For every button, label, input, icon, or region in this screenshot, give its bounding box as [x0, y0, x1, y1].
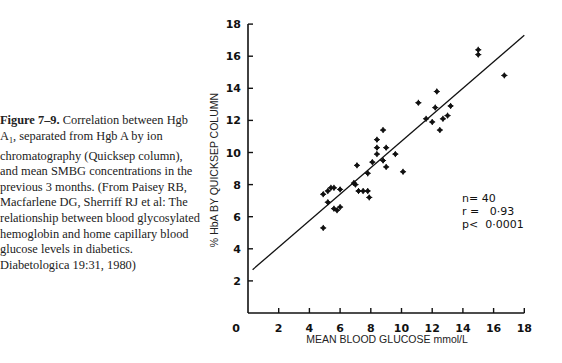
data-point	[434, 89, 440, 95]
data-point	[374, 137, 380, 143]
y-tick-label: 14	[226, 82, 242, 95]
tick-labels: 24681012141618024681012141618	[226, 18, 532, 335]
data-point	[400, 169, 406, 175]
y-tick-label: 4	[233, 243, 241, 256]
y-tick-label: 8	[233, 179, 241, 192]
stat-line: r = 0·93	[462, 205, 514, 218]
data-point	[501, 72, 507, 78]
stat-line: n= 40	[462, 192, 496, 205]
y-tick-label: 2	[233, 275, 241, 288]
data-point	[337, 186, 343, 192]
data-point	[325, 199, 331, 205]
statistics-annotation: n= 40r = 0·93p< 0·0001	[462, 192, 524, 231]
data-point	[475, 52, 481, 58]
data-point	[440, 116, 446, 122]
data-point	[383, 164, 389, 170]
data-point	[383, 145, 389, 151]
data-point	[374, 151, 380, 157]
y-axis-label: % HbA BY QUICKSEP COLUMN	[208, 93, 220, 247]
y-tick-label: 16	[226, 50, 242, 63]
scatter-chart: 24681012141618024681012141618 % HbA BY Q…	[0, 0, 562, 363]
x-tick-label: 16	[486, 322, 502, 335]
y-tick-label: 18	[226, 18, 241, 31]
data-point	[365, 188, 371, 194]
stat-line: p< 0·0001	[462, 218, 524, 231]
data-point	[448, 103, 454, 109]
data-point	[366, 194, 372, 200]
data-point	[320, 191, 326, 197]
data-point	[445, 113, 451, 119]
data-point	[392, 151, 398, 157]
data-point	[437, 127, 443, 133]
data-point	[380, 127, 386, 133]
data-point	[331, 185, 337, 191]
y-tick-label: 12	[226, 114, 241, 127]
y-tick-label: 10	[226, 147, 242, 160]
data-point	[354, 162, 360, 168]
x-tick-label: 2	[275, 322, 283, 335]
x-axis-label: MEAN BLOOD GLUCOSE mmol/L	[306, 333, 468, 345]
regression-line	[253, 35, 525, 269]
x-tick-label: 18	[517, 322, 532, 335]
data-point	[423, 116, 429, 122]
data-point	[320, 225, 326, 231]
data-point	[429, 119, 435, 125]
y-tick-label: 6	[233, 211, 241, 224]
data-point	[374, 145, 380, 151]
data-point	[415, 100, 421, 106]
data-point	[365, 170, 371, 176]
x-tick-label: 0	[232, 322, 240, 335]
